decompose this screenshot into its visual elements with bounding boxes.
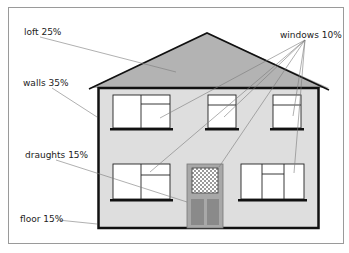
label-loft: loft 25% bbox=[24, 27, 62, 37]
heat-loss-diagram: loft 25% windows 10% walls 35% draughts … bbox=[0, 0, 349, 253]
label-floor: floor 15% bbox=[20, 214, 64, 224]
window-bottom-left bbox=[110, 164, 173, 202]
window-top-left bbox=[110, 95, 173, 131]
front-door bbox=[187, 164, 223, 228]
label-walls: walls 35% bbox=[23, 78, 69, 88]
label-draughts: draughts 15% bbox=[25, 150, 89, 160]
door-panel-right bbox=[207, 199, 219, 225]
door-glass bbox=[192, 168, 218, 193]
label-windows: windows 10% bbox=[280, 30, 342, 40]
door-panel-left bbox=[191, 199, 204, 225]
window-bottom-right bbox=[238, 164, 307, 202]
